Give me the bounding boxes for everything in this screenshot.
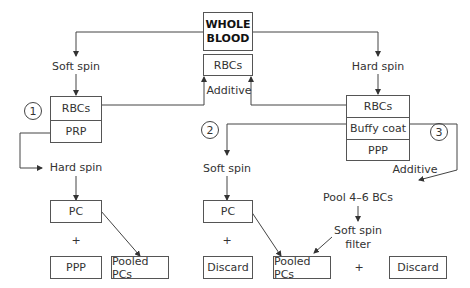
additive-label-top: Additive [207, 84, 252, 97]
method3-number-badge: 3 [430, 123, 448, 141]
rbc-return-box: RBCs [203, 54, 253, 76]
method1-pooled-pcs-label: Pooled PCs [112, 255, 168, 281]
method1-soft-spin-label: Soft spin [52, 60, 100, 73]
method1-ppp-label: PPP [66, 261, 86, 274]
method3-discard-box: Discard [389, 256, 447, 279]
method1-plus: + [71, 234, 80, 247]
method3-rbcs-layer: RBCs [347, 96, 409, 117]
method1-prp-layer: PRP [51, 120, 101, 142]
whole-blood-line2: BLOOD [207, 32, 250, 46]
method2-plus: + [222, 234, 231, 247]
method3-filter-label: filter [345, 238, 371, 251]
method1-pooled-pcs-box: Pooled PCs [111, 256, 169, 279]
method3-plus: + [354, 261, 363, 274]
method3-pooled-pcs-box: Pooled PCs [273, 256, 331, 279]
method2-number-badge: 2 [201, 121, 219, 139]
method3-buffy-coat-layer: Buffy coat [347, 117, 409, 139]
method3-ppp-layer: PPP [347, 139, 409, 160]
method2-discard-box: Discard [203, 256, 253, 279]
method3-pool-label: Pool 4–6 BCs [323, 191, 393, 204]
method1-hard-spin-label: Hard spin [50, 161, 103, 174]
whole-blood-line1: WHOLE [205, 18, 250, 32]
rbc-return-label: RBCs [214, 59, 242, 72]
method1-rbcs-layer: RBCs [51, 97, 101, 120]
method3-discard-label: Discard [397, 261, 438, 274]
method3-separation-stack: RBCs Buffy coat PPP [346, 95, 410, 161]
method1-pc-label: PC [69, 205, 83, 218]
method2-pc-label: PC [221, 205, 235, 218]
method2-pc-box: PC [203, 200, 253, 223]
whole-blood-box: WHOLE BLOOD [203, 12, 253, 51]
method2-soft-spin-label: Soft spin [203, 162, 251, 175]
method3-pooled-pcs-label: Pooled PCs [274, 255, 330, 281]
method1-ppp-box: PPP [50, 256, 102, 279]
method1-pc-box: PC [50, 200, 102, 223]
method2-discard-label: Discard [207, 261, 248, 274]
method3-soft-spin-label: Soft spin [334, 224, 382, 237]
method1-separation-stack: RBCs PRP [50, 96, 102, 143]
method3-additive-label: Additive [393, 163, 438, 176]
method1-number-badge: 1 [24, 102, 42, 120]
method3-hard-spin-label: Hard spin [352, 60, 405, 73]
